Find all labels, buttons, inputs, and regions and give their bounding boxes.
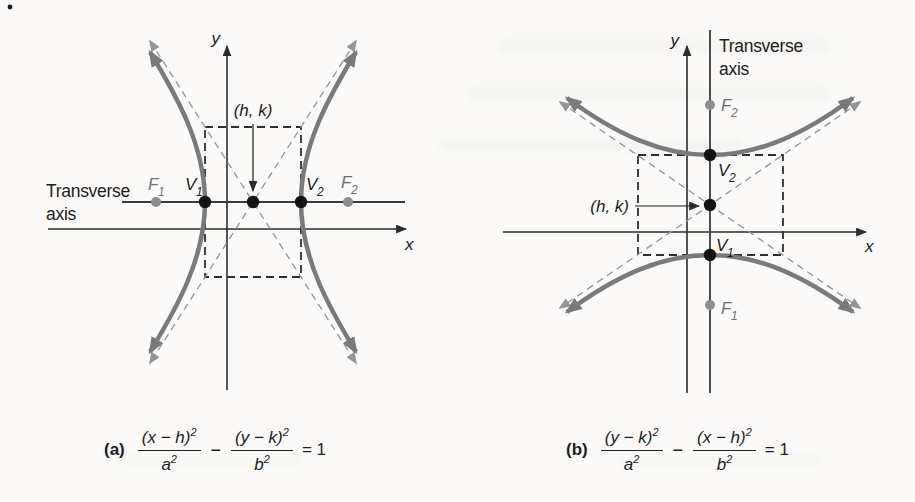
vertex-v1-sub: 1 bbox=[727, 246, 734, 260]
ink-speck bbox=[8, 5, 13, 10]
y-axis-label: y bbox=[211, 29, 222, 48]
fraction-term: (y − k)2 b2 bbox=[231, 427, 293, 473]
equation-a-label: (a) bbox=[104, 440, 125, 460]
focus-dot-f1 bbox=[705, 300, 715, 310]
fraction-term: (y − k)2 a2 bbox=[601, 427, 663, 473]
minus-sign: − bbox=[210, 440, 223, 461]
center-dot bbox=[247, 196, 259, 208]
fraction-term: (x − h)2 a2 bbox=[138, 427, 201, 473]
vertex-dot-v1 bbox=[704, 249, 716, 261]
x-axis-label: x bbox=[864, 237, 874, 256]
center-dot bbox=[704, 199, 716, 211]
transverse-axis-label-line1: Transverse bbox=[46, 181, 130, 201]
equals-one: = 1 bbox=[765, 440, 789, 460]
hyperbola-diagram-a: y x Transverse axis (h, k) F 1 V 1 V 2 F… bbox=[0, 0, 457, 415]
textbook-hyperbola-figure: y x Transverse axis (h, k) F 1 V 1 V 2 F… bbox=[0, 0, 915, 502]
x-axis-label: x bbox=[404, 235, 414, 254]
focus-f2-sub: 2 bbox=[730, 106, 738, 120]
focus-f1-sub: 1 bbox=[731, 309, 738, 323]
hyperbola-diagram-b: y x Transverse axis (h, k) F 2 V 2 V 1 F… bbox=[457, 0, 915, 415]
center-label: (h, k) bbox=[234, 101, 273, 120]
equation-b: (b) (y − k)2 a2 − (x − h)2 b2 = 1 bbox=[566, 427, 789, 473]
center-label: (h, k) bbox=[590, 197, 629, 216]
vertex-v2-sub: 2 bbox=[316, 185, 324, 199]
y-axis-label: y bbox=[670, 31, 681, 50]
focus-f2-sub: 2 bbox=[350, 183, 358, 197]
vertex-v2-sub: 2 bbox=[728, 171, 736, 185]
minus-sign: − bbox=[672, 440, 685, 461]
focus-dot-f2 bbox=[343, 197, 353, 207]
equals-one: = 1 bbox=[302, 440, 326, 460]
transverse-axis-label-line1: Transverse bbox=[719, 36, 803, 56]
equation-a: (a) (x − h)2 a2 − (y − k)2 b2 = 1 bbox=[104, 427, 326, 473]
transverse-axis-label-line2: axis bbox=[46, 204, 76, 224]
vertex-dot-v2 bbox=[295, 196, 307, 208]
transverse-axis-label-line2: axis bbox=[719, 59, 749, 79]
fraction-term: (x − h)2 b2 bbox=[693, 427, 756, 473]
focus-dot-f2 bbox=[705, 100, 715, 110]
vertex-dot-v2 bbox=[704, 149, 716, 161]
equation-b-label: (b) bbox=[566, 440, 588, 460]
vertex-v1-sub: 1 bbox=[196, 185, 203, 199]
focus-f1-sub: 1 bbox=[158, 185, 165, 199]
